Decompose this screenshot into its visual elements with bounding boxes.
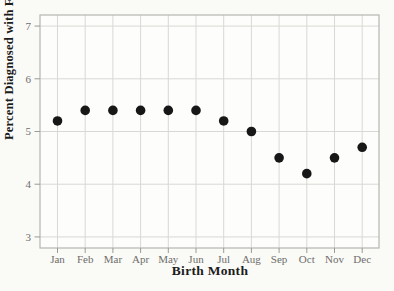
data-point	[108, 106, 118, 116]
data-point	[330, 153, 340, 163]
data-point	[219, 116, 229, 126]
data-point	[80, 106, 90, 116]
data-point	[53, 116, 63, 126]
data-point	[357, 143, 367, 153]
flu-by-birth-month-figure: 34567JanFebMarAprMayJunJulAugSepOctNovDe…	[0, 0, 394, 291]
data-point	[302, 169, 312, 179]
y-tick-label: 3	[26, 231, 32, 243]
data-point	[164, 106, 174, 116]
y-tick-label: 6	[26, 73, 32, 85]
data-point	[274, 153, 284, 163]
y-tick-label: 7	[26, 20, 32, 32]
data-point	[247, 127, 257, 137]
y-tick-label: 4	[26, 178, 32, 190]
data-point	[136, 106, 146, 116]
data-point	[191, 106, 201, 116]
y-tick-label: 5	[26, 125, 32, 137]
scatter-plot: 34567JanFebMarAprMayJunJulAugSepOctNovDe…	[0, 0, 394, 291]
x-axis-title: Birth Month	[0, 263, 394, 279]
